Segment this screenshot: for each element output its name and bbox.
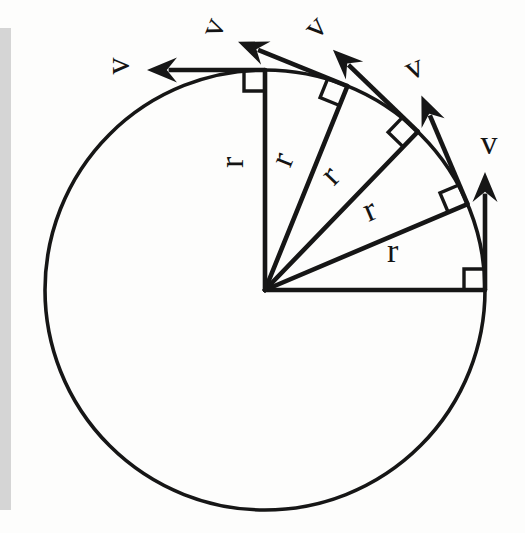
velocity-90-label: v [99,58,136,75]
paper-background [0,0,525,533]
velocity-0-label: v [481,124,498,161]
page-edge-shadow-strip [0,28,11,510]
circular-motion-diagram: rrrrr vvvvv [0,0,525,533]
radius-0-label: r [387,232,399,269]
radius-90-label: r [213,156,250,168]
figure-root: rrrrr vvvvv [0,0,525,533]
